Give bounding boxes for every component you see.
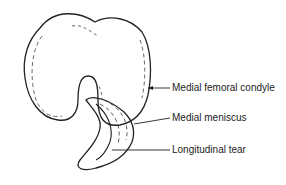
label-longitudinal-tear: Longitudinal tear <box>172 144 246 155</box>
diagram-canvas: Medial femoral condyle Medial meniscus L… <box>0 0 286 185</box>
femoral-condyle-outline <box>24 14 150 126</box>
label-medial-femoral-condyle: Medial femoral condyle <box>172 82 275 93</box>
label-medial-meniscus: Medial meniscus <box>172 112 246 123</box>
medial-meniscus-outline <box>78 98 134 170</box>
